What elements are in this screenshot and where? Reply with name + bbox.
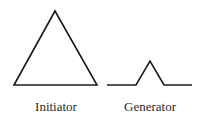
generator-curve (107, 61, 192, 85)
generator-label: Generator (124, 100, 176, 113)
initiator-triangle (14, 11, 97, 85)
initiator-label: Initiator (35, 100, 77, 113)
